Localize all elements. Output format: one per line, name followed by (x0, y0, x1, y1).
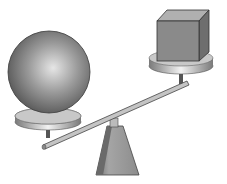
fulcrum (96, 118, 139, 175)
cube (157, 10, 209, 61)
balance-scale-illustration (0, 0, 227, 184)
sphere (8, 31, 90, 113)
